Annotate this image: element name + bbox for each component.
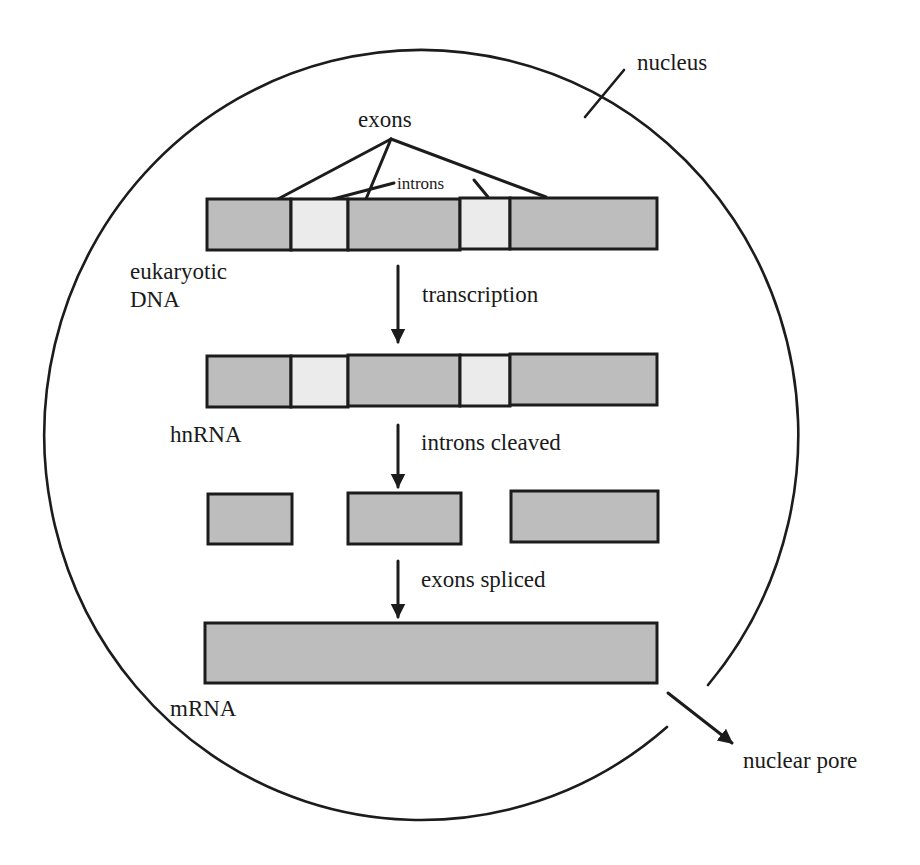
nuclear-pore-arrow [668, 693, 732, 743]
nucleus-pointer-line [585, 70, 624, 117]
dna-intron-2 [460, 198, 510, 249]
exons-label: exons [358, 107, 412, 132]
dna-intron-1 [291, 199, 348, 250]
exons-spliced-label: exons spliced [421, 567, 546, 592]
hnrna-label: hnRNA [170, 422, 242, 447]
nuclear-pore-label: nuclear pore [743, 748, 857, 773]
dna-exon-2 [348, 199, 460, 250]
hnrna-intron-2 [460, 355, 510, 406]
hnrna-exon-3 [510, 354, 657, 405]
hnrna-bar [207, 354, 657, 407]
cleaved-exon-2 [348, 493, 461, 544]
dna-label-line1: eukaryotic [130, 259, 227, 284]
hnrna-intron-1 [291, 356, 348, 407]
nucleus-label: nucleus [637, 50, 707, 75]
hnrna-exon-2 [348, 355, 460, 406]
hnrna-exon-1 [207, 356, 291, 407]
cleaved-exons [208, 491, 658, 544]
dna-bar [207, 198, 657, 250]
dna-label-line2: DNA [130, 287, 180, 312]
introns-cleaved-label: introns cleaved [421, 430, 561, 455]
introns-label: introns [397, 174, 444, 193]
mrna-label: mRNA [170, 696, 237, 721]
cleaved-exon-3 [511, 491, 658, 542]
diagram-canvas: nucleus exons introns eukaryotic DNA tra… [0, 0, 920, 865]
mrna-bar [205, 623, 657, 683]
dna-exon-1 [207, 199, 291, 250]
cleaved-exon-1 [208, 494, 292, 544]
transcription-label: transcription [422, 282, 539, 307]
dna-exon-3 [510, 198, 657, 249]
